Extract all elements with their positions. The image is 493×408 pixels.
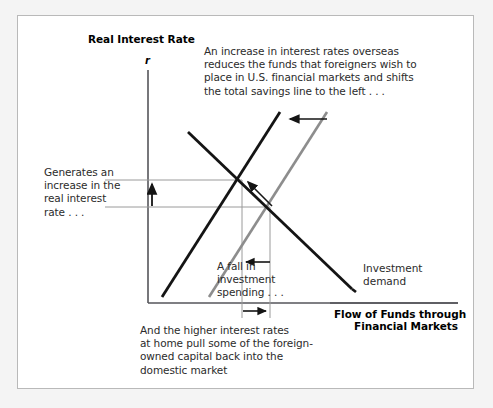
x-axis-title-line1: Flow of Funds through (334, 308, 458, 321)
y-axis-title: Real Interest Rate (88, 33, 195, 46)
y-axis-variable-label: r (145, 55, 150, 66)
annotation-savings-shift: An increase in interest rates overseas r… (204, 45, 417, 98)
annotation-interest-rate-rise: Generates an increase in the real intere… (44, 166, 120, 219)
annotation-capital-inflow: And the higher interest rates at home pu… (140, 324, 313, 377)
annotation-investment-fall: A fall in investment spending . . . (217, 260, 284, 300)
investment-demand-label-line1: Investment (363, 262, 422, 275)
investment-demand-leader (352, 289, 356, 292)
x-axis-title-line2: Financial Markets (334, 320, 458, 333)
figure-page: Real Interest Rate r Flow of Funds throu… (0, 0, 493, 408)
investment-demand-label-line2: demand (363, 275, 406, 288)
